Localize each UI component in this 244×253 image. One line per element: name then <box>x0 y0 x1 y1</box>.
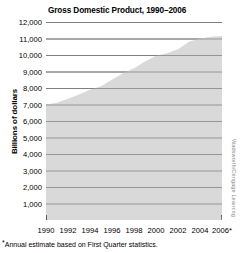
gdp-area-chart-figure: Gross Domestic Product, 1990–2006 Billio… <box>0 0 244 253</box>
x-tick-label: 1998 <box>126 226 143 235</box>
x-tick-label: 2004 <box>192 226 209 235</box>
credit-label: Wadsworth/Cengage Learning <box>231 124 237 232</box>
plot-svg <box>46 22 222 220</box>
x-tick-label: 2000 <box>148 226 165 235</box>
x-tick-label: 2002 <box>170 226 187 235</box>
plot-area <box>46 22 222 220</box>
footnote-text: Annual estimate based on First Quarter s… <box>5 241 158 248</box>
x-tick-label: 1994 <box>82 226 99 235</box>
x-tick-label: 1992 <box>60 226 77 235</box>
x-tick-label: 1990 <box>38 226 55 235</box>
x-tick-label: 2006* <box>212 226 232 235</box>
gdp-area-series <box>46 36 222 220</box>
footnote: *Annual estimate based on First Quarter … <box>2 239 158 248</box>
x-tick-label: 1996 <box>104 226 121 235</box>
